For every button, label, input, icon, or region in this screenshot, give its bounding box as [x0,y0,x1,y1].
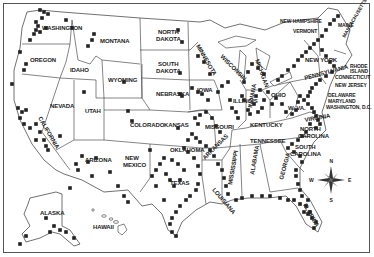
label-north: NORTH [158,29,179,35]
location-marker [126,200,130,204]
location-marker [64,230,68,234]
location-marker [240,196,244,200]
location-marker [314,82,318,86]
location-marker [194,188,198,192]
location-marker [116,184,120,188]
location-marker [22,68,26,72]
location-marker [196,122,200,126]
location-marker [220,168,224,172]
location-marker [46,12,50,16]
location-marker [58,228,62,232]
location-marker [170,158,174,162]
location-marker [20,110,24,114]
location-marker [164,172,168,176]
location-marker [308,46,312,50]
location-marker [28,126,32,130]
location-marker [68,186,72,190]
location-marker [328,60,332,64]
location-marker [300,194,304,198]
location-marker [42,10,46,14]
location-marker [280,74,284,78]
location-marker [298,154,302,158]
location-marker [36,24,40,28]
location-marker [168,222,172,226]
location-marker [208,72,212,76]
label-colorado: COLORADO [130,122,165,128]
location-marker [294,174,298,178]
location-marker [262,72,266,76]
location-marker [302,210,306,214]
location-marker [180,40,184,44]
location-marker [192,156,196,160]
location-marker [38,130,42,134]
location-marker [308,90,312,94]
location-marker [42,138,46,142]
label-missouri: MISSOURI [205,124,234,130]
location-marker [234,110,238,114]
location-marker [306,212,310,216]
location-marker [252,102,256,106]
location-marker [28,38,32,42]
location-marker [296,182,300,186]
location-marker [336,14,340,18]
label-hawaii: HAWAII [93,224,114,230]
location-marker [324,54,328,58]
label-nebraska: NEBRASKA [156,91,190,97]
location-marker [300,54,304,58]
location-marker [32,32,36,36]
location-marker [208,148,212,152]
location-marker [46,148,50,152]
location-marker [210,116,214,120]
location-marker [44,26,48,30]
location-marker [198,172,202,176]
location-marker [24,234,28,238]
location-marker [304,130,308,134]
location-marker [328,22,332,26]
location-marker [34,28,38,32]
label-idaho: IDAHO [70,67,89,73]
location-marker [148,148,152,152]
location-marker [38,30,42,34]
location-marker [40,16,44,20]
location-marker [298,188,302,192]
location-marker [162,156,166,160]
location-marker [292,64,296,68]
location-marker [178,178,182,182]
location-marker [176,28,180,32]
location-marker [294,168,298,172]
location-marker [296,100,300,104]
location-marker [34,138,38,142]
location-marker [206,98,210,102]
location-marker [266,90,270,94]
location-marker [224,184,228,188]
label-new-hampshire: NEW HAMPSHIRE [280,18,323,24]
location-marker [126,109,130,113]
location-marker [312,42,316,46]
location-marker [16,106,20,110]
location-marker [316,38,320,42]
location-marker [316,118,320,122]
location-marker [48,230,52,234]
location-marker [122,80,126,84]
svg-text:N: N [330,158,334,164]
label-massachusetts: MASSACHUSETTS [341,0,368,39]
location-marker [302,98,306,102]
location-marker [194,136,198,140]
location-marker [216,162,220,166]
location-marker [80,154,84,158]
location-marker [108,170,112,174]
location-marker [240,94,244,98]
location-marker [310,216,314,220]
location-marker [296,138,300,142]
location-marker [204,110,208,114]
label-new-york: NEW YORK [305,57,338,63]
location-marker [162,198,166,202]
us-map: WASHINGTONOREGONCALIFORNIANEVADAIDAHOMON… [0,0,374,257]
location-marker [278,196,282,200]
location-marker [193,116,197,120]
location-marker [158,162,162,166]
location-marker [258,88,262,92]
location-marker [298,202,302,206]
location-marker [284,110,288,114]
location-marker [52,224,56,228]
